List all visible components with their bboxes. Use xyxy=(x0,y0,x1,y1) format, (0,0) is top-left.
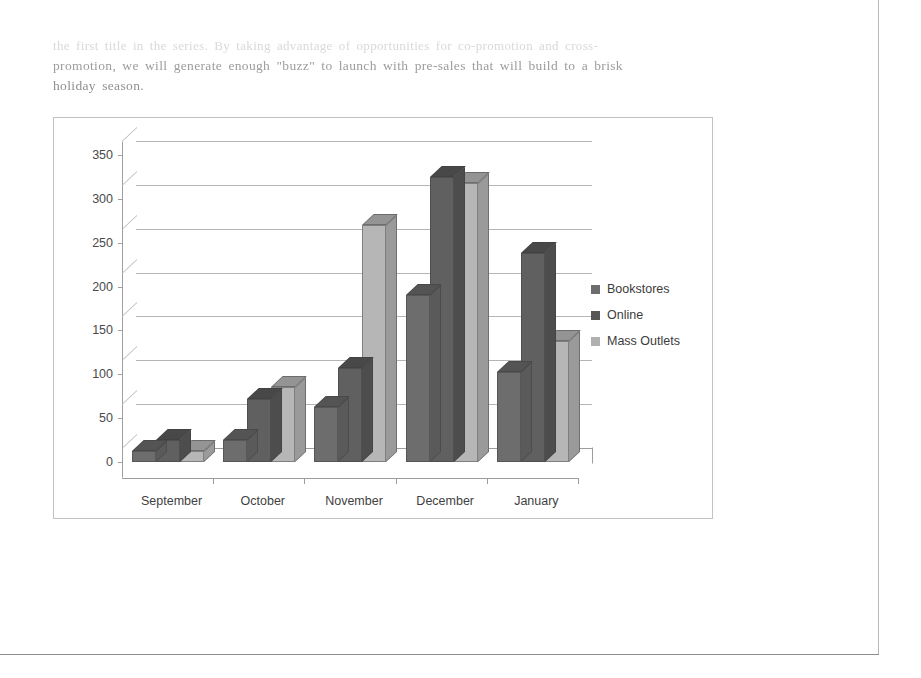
chart-object[interactable]: 050100150200250300350 SeptemberOctoberNo… xyxy=(53,117,713,519)
bar-bookstores[interactable] xyxy=(314,407,338,462)
legend-swatch-icon xyxy=(591,285,600,294)
bar-group xyxy=(487,142,578,462)
category-axis-label: December xyxy=(416,494,474,508)
category-axis-tick xyxy=(304,478,305,484)
paragraph-line-3: holiday season. xyxy=(53,76,743,96)
bar-bookstores[interactable] xyxy=(132,451,156,462)
category-axis-label: January xyxy=(514,494,558,508)
bar-side xyxy=(295,377,306,462)
bar-side xyxy=(521,361,532,462)
bar-face xyxy=(132,451,156,462)
value-axis-label: 200 xyxy=(92,280,113,294)
legend-label: Online xyxy=(607,308,643,322)
bar-bookstores[interactable] xyxy=(223,440,247,462)
bar-group xyxy=(122,142,213,462)
bar-side xyxy=(362,358,373,462)
bar-side xyxy=(386,215,397,462)
value-axis-label: 250 xyxy=(92,236,113,250)
category-axis-tick xyxy=(578,478,579,484)
category-axis-label: November xyxy=(325,494,383,508)
chart-legend: BookstoresOnlineMass Outlets xyxy=(591,276,680,354)
value-axis-label: 100 xyxy=(92,367,113,381)
chart-floor xyxy=(122,462,592,478)
value-axis-label: 350 xyxy=(92,148,113,162)
bar-group xyxy=(213,142,304,462)
bar-side xyxy=(454,167,465,462)
bar-face xyxy=(497,372,521,462)
legend-label: Bookstores xyxy=(607,282,670,296)
legend-label: Mass Outlets xyxy=(607,334,680,348)
legend-item[interactable]: Bookstores xyxy=(591,276,680,302)
category-axis-tick xyxy=(213,478,214,484)
scanned-page-sheet: the first title in the series. By taking… xyxy=(0,0,879,655)
bar-bookstores[interactable] xyxy=(497,372,521,462)
bar-side xyxy=(569,331,580,462)
value-axis-label: 150 xyxy=(92,323,113,337)
legend-item[interactable]: Online xyxy=(591,302,680,328)
value-axis-label: 300 xyxy=(92,192,113,206)
document-paragraph: the first title in the series. By taking… xyxy=(53,36,743,96)
bar-side xyxy=(545,243,556,462)
category-axis-label: October xyxy=(241,494,285,508)
bar-side xyxy=(271,389,282,462)
bar-side xyxy=(430,285,441,462)
category-axis-tick xyxy=(396,478,397,484)
legend-swatch-icon xyxy=(591,337,600,346)
paragraph-line-1: the first title in the series. By taking… xyxy=(53,36,743,56)
bar-group xyxy=(304,142,395,462)
legend-item[interactable]: Mass Outlets xyxy=(591,328,680,354)
bar-face xyxy=(406,295,430,462)
category-axis-label: September xyxy=(141,494,202,508)
category-axis-tick xyxy=(487,478,488,484)
paragraph-line-2: promotion, we will generate enough "buzz… xyxy=(53,56,743,76)
chart-plot-area: 050100150200250300350 SeptemberOctoberNo… xyxy=(122,142,562,462)
bar-side xyxy=(338,397,349,462)
bar-group xyxy=(396,142,487,462)
bar-face xyxy=(223,440,247,462)
bar-bookstores[interactable] xyxy=(406,295,430,462)
value-axis-label: 0 xyxy=(106,455,113,469)
value-axis-label: 50 xyxy=(99,411,113,425)
bar-face xyxy=(314,407,338,462)
floor-front-edge xyxy=(122,478,578,479)
legend-swatch-icon xyxy=(591,311,600,320)
bar-side xyxy=(478,173,489,462)
